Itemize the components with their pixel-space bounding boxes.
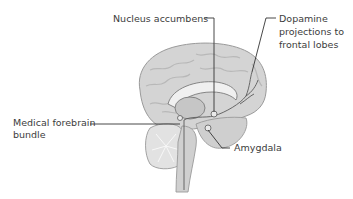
- label-mfb-line1: Medical forebrain: [13, 117, 96, 128]
- label-amygdala: Amygdala: [234, 142, 282, 153]
- vta-marker: [178, 116, 183, 121]
- label-dopamine-line3: frontal lobes: [279, 39, 338, 50]
- label-dopamine-line1: Dopamine: [279, 13, 328, 24]
- label-mfb-line2: bundle: [13, 129, 46, 140]
- label-dopamine-line2: projections to: [279, 26, 344, 37]
- label-nucleus-accumbens: Nucleus accumbens: [113, 13, 208, 24]
